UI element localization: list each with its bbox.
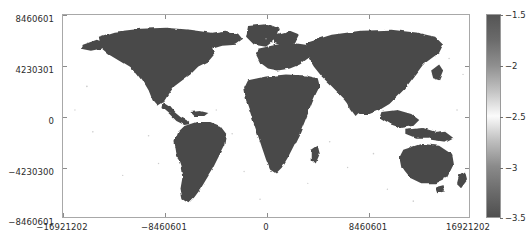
x-tick-label: 16921202 <box>446 222 490 232</box>
colorbar[interactable] <box>486 14 501 218</box>
y-tick-label-text: −4230300 <box>8 167 58 177</box>
colorbar-tick <box>500 168 503 169</box>
y-tick-mark-right <box>465 168 469 169</box>
colorbar-tick-label: −2 <box>505 61 518 71</box>
colorbar-tick <box>500 66 503 67</box>
y-tick-mark-right <box>465 117 469 118</box>
y-tick-mark <box>63 15 67 16</box>
y-tick-label-text: 8460601 <box>15 14 58 24</box>
x-tick-mark <box>165 213 166 217</box>
colorbar-gradient <box>487 15 500 217</box>
colorbar-tick-label: −3.5 <box>505 213 526 223</box>
figure-canvas: −16921202 −8460601 0 8460601 16921202 84… <box>0 0 528 252</box>
colorbar-tick <box>500 218 503 219</box>
colorbar-tick <box>500 15 503 16</box>
colorbar-tick-label: −1.5 <box>505 10 526 20</box>
colorbar-tick <box>500 117 503 118</box>
x-tick-mark <box>369 213 370 217</box>
y-tick-label-text: 4230301 <box>15 65 58 75</box>
x-tick-mark-top <box>165 15 166 19</box>
y-tick-mark <box>63 117 67 118</box>
colorbar-tick-label: −2.5 <box>505 112 526 122</box>
y-tick-label-text: 0 <box>48 116 58 126</box>
x-tick-mark <box>267 213 268 217</box>
colorbar-tick-label: −3 <box>505 163 518 173</box>
x-tick-label: −8460601 <box>141 222 187 232</box>
map-axes[interactable] <box>62 14 470 218</box>
x-tick-mark <box>469 213 470 217</box>
x-tick-label: 0 <box>263 222 269 232</box>
y-tick-mark <box>63 217 67 218</box>
y-tick-mark <box>63 66 67 67</box>
y-tick-label-text: −8460601 <box>8 217 58 227</box>
x-tick-mark-top <box>267 15 268 19</box>
y-tick-mark-right <box>465 66 469 67</box>
x-tick-label: 8460601 <box>349 222 388 232</box>
x-tick-mark-top <box>369 15 370 19</box>
world-raster-layer <box>63 15 469 217</box>
y-tick-mark <box>63 168 67 169</box>
